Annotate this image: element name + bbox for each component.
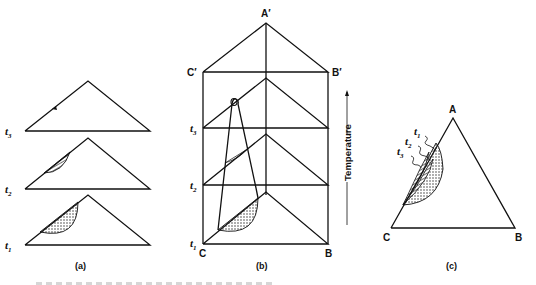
vertex-c: C (383, 232, 390, 243)
curve-label-t3: t3 (397, 145, 404, 160)
curve-label-t2: t2 (405, 135, 412, 150)
panel-caption-c: (c) (446, 261, 457, 271)
panel-a: t3 t2 t1 (a) (5, 81, 150, 271)
level-label-t2: t2 (5, 183, 12, 198)
vertex-b: B (325, 248, 332, 259)
leader-t3 (411, 156, 421, 168)
temperature-label: Temperature (342, 124, 353, 181)
vertex-b: B (515, 232, 522, 243)
level-label-t1: t1 (5, 239, 12, 254)
triangle-t1 (25, 195, 150, 245)
panel-b: A′ C′ B′ C B t3 t2 t1 Temperature (b) (187, 8, 353, 271)
triangle-t3 (25, 81, 150, 131)
vertex-c-prime: C′ (187, 67, 197, 78)
vertex-a-prime: A′ (261, 8, 271, 19)
panel-caption-b: (b) (256, 261, 268, 271)
panel-caption-a: (a) (75, 261, 86, 271)
level-label-t3: t3 (5, 125, 12, 140)
level-label-t1: t1 (190, 237, 197, 252)
phase-diagram-figure: t3 t2 t1 (a) A′ C′ (0, 0, 536, 285)
triangle-t2 (25, 138, 150, 189)
arrow-up-icon (345, 90, 349, 96)
temperature-axis: Temperature (342, 90, 353, 225)
level-label-t3: t3 (190, 122, 197, 137)
curve-label-t1: t1 (414, 125, 421, 140)
level-label-t2: t2 (190, 179, 197, 194)
panel-c: t1 t2 t3 A C B (c) (383, 104, 522, 271)
vertex-b-prime: B′ (332, 67, 342, 78)
vertex-a: A (449, 104, 456, 115)
vertex-c: C (199, 248, 206, 259)
ternary-triangle (391, 118, 515, 228)
